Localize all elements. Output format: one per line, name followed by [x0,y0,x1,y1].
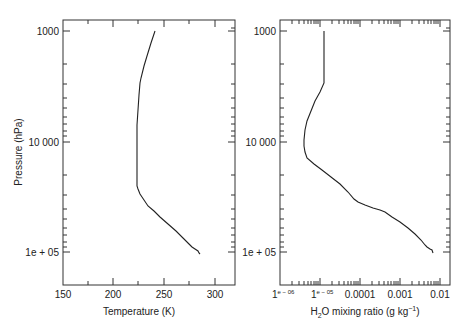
h2o-xtick-0.0001: 0.0001 [345,289,376,300]
temperature-x-ticks [88,20,215,285]
temperature-ytick-1000: 1000 [37,26,60,37]
temperature-ytick-10000: 10 000 [28,137,59,148]
temperature-ytick-1e5: 1e + 05 [25,247,59,258]
temperature-xtick-150: 150 [55,289,72,300]
h2o-xtick-0.001: 0.001 [387,289,412,300]
temperature-panel: 1000 10 000 1e + 05 150 200 250 300 Temp… [13,20,235,317]
h2o-ytick-1000: 1000 [254,26,277,37]
h2o-x-axis-title: H2O mixing ratio (g kg−1) [310,305,419,319]
h2o-profile-line [304,31,433,253]
h2o-ytick-10000: 10 000 [245,137,276,148]
pressure-y-axis-title: Pressure (hPa) [13,118,24,185]
temperature-xtick-200: 200 [105,289,122,300]
h2o-ytick-1e5: 1e + 05 [242,247,276,258]
temperature-x-axis-title: Temperature (K) [103,306,175,317]
temperature-xtick-300: 300 [207,289,224,300]
figure: 1000 10 000 1e + 05 150 200 250 300 Temp… [0,0,469,334]
temperature-plot-frame [63,20,235,285]
temperature-y-ticks [63,28,235,252]
temperature-profile-line [137,31,200,254]
h2o-xtick-1e-05: 1e − 05 [311,289,334,300]
temperature-xtick-250: 250 [156,289,173,300]
h2o-xtick-0.01: 0.01 [430,289,450,300]
h2o-y-ticks [280,28,450,252]
h2o-x-ticks [292,20,440,285]
h2o-panel: 1000 10 000 1e + 05 1e − 06 1e − 05 0.00… [242,20,450,319]
h2o-xtick-1e-06: 1e − 06 [272,289,295,300]
